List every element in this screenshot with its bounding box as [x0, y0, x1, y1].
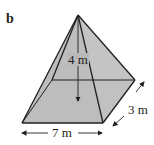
part-label: b: [6, 12, 14, 26]
length-label: 7 m: [50, 126, 74, 139]
width-arrow-down: [113, 116, 124, 126]
width-label: 3 m: [128, 103, 148, 116]
base-visible: [22, 80, 135, 123]
width-arrow-up: [136, 82, 144, 92]
pyramid-diagram: [0, 0, 154, 145]
height-label: 4 m: [67, 53, 89, 66]
